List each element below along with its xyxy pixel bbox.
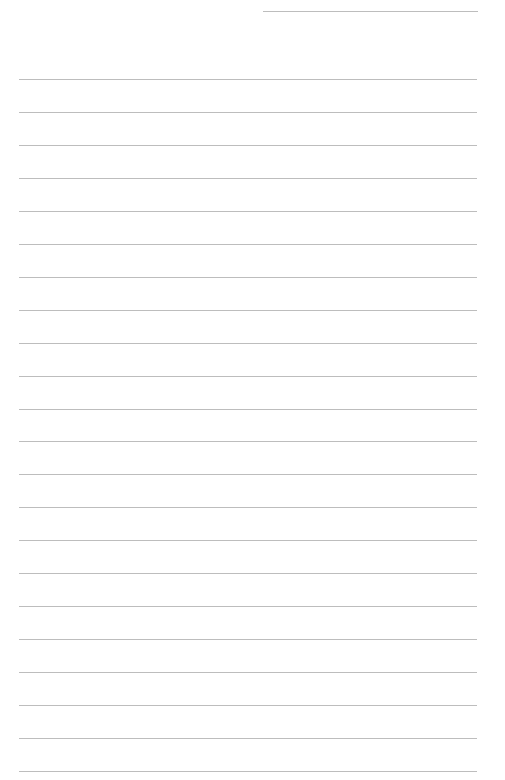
ruled-line [19,507,477,508]
ruled-line [19,244,477,245]
ruled-line [19,409,477,410]
ruled-line [19,738,477,739]
ruled-line [19,441,477,442]
ruled-line [19,343,477,344]
ruled-line [19,540,477,541]
ruled-line [19,178,477,179]
ruled-line [19,376,477,377]
ruled-line [19,639,477,640]
ruled-line [19,771,477,772]
ruled-line [19,672,477,673]
ruled-line [19,474,477,475]
ruled-line [19,606,477,607]
ruled-page [0,0,505,780]
ruled-line [19,277,477,278]
ruled-line [19,573,477,574]
ruled-line [19,211,477,212]
ruled-line [19,705,477,706]
ruled-line [19,145,477,146]
ruled-lines [0,0,505,780]
ruled-line [19,79,477,80]
ruled-line [19,112,477,113]
ruled-line [19,310,477,311]
